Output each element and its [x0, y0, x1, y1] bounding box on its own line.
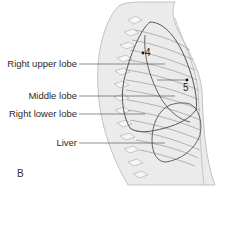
- label-right-lower-lobe: Right lower lobe: [9, 109, 77, 119]
- label-liver: Liver: [56, 138, 77, 148]
- marker-5: 5: [183, 83, 189, 93]
- marker-4: 4: [145, 48, 151, 58]
- panel-label: B: [17, 168, 24, 179]
- label-middle-lobe: Middle lobe: [28, 91, 77, 101]
- label-right-upper-lobe: Right upper lobe: [7, 59, 77, 69]
